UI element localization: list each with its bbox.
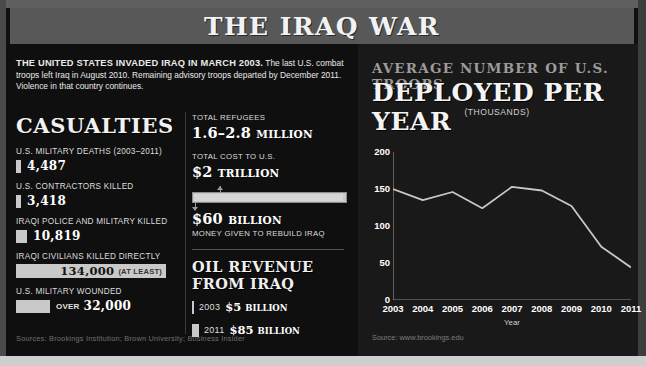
stat-label: MONEY GIVEN TO REBUILD IRAQ [192,229,352,238]
stat-rebuild-money: $60 BILLION MONEY GIVEN TO REBUILD IRAQ [192,210,352,238]
cost-marker-up-icon [220,186,221,193]
stat-number: 1.6–2.8 [192,124,251,141]
cost-bar-inner [194,194,343,201]
stat-total-refugees: TOTAL REFUGEES 1.6–2.8 MILLION [192,113,352,141]
stat-value: $60 BILLION [192,210,352,227]
chart-svg [393,152,631,300]
casualty-value: 4,487 [27,159,66,173]
casualty-item-military-wounded: U.S. MILITARY WOUNDED OVER 32,000 [16,287,178,313]
chart-y-tick-label: 150 [374,183,390,194]
chart-x-tick-label: 2009 [561,303,582,314]
oil-revenue-heading: OIL REVENUE FROM IRAQ [192,258,352,292]
title-bar: THE IRAQ WAR [10,8,634,44]
casualty-note: OVER [56,302,79,311]
casualty-bar [16,195,21,208]
casualty-bar: 134,000 (AT LEAST) [16,264,166,278]
chart-x-tick-label: 2007 [501,303,522,314]
casualty-item-iraqi-police-military: IRAQI POLICE AND MILITARY KILLED 10,819 [16,217,178,243]
stat-unit: BILLION [228,214,282,226]
cost-comparison-bar [192,186,347,208]
casualty-label: U.S. MILITARY WOUNDED [16,287,178,296]
chart-y-tick-label: 100 [374,220,390,231]
chart-x-tick-label: 2005 [442,303,463,314]
casualty-value: 32,000 [83,299,131,313]
chart-x-tick-label: 2008 [531,303,552,314]
frame-bottom-edge [0,356,646,366]
sources-left: Sources: Brookings Institution; Brown Un… [16,334,245,343]
chart-x-tick-label: 2010 [591,303,612,314]
casualty-bar [16,300,50,313]
casualty-label: IRAQI CIVILIANS KILLED DIRECTLY [16,252,178,261]
casualty-value: 134,000 [60,264,114,278]
troops-line-chart [393,152,631,300]
oil-number: $5 [225,300,241,314]
chart-header-unit: (THOUSANDS) [372,107,622,117]
page-title: THE IRAQ WAR [204,12,440,41]
chart-data-line [393,187,631,268]
oil-year: 2003 [199,302,220,312]
chart-source: Source: www.brookings.edu [372,333,464,342]
casualty-label: U.S. CONTRACTORS KILLED [16,182,178,191]
chart-x-axis-labels: 200320042005200620072008200920102011 [380,303,638,317]
casualty-note: (AT LEAST) [118,267,162,276]
casualty-value: 10,819 [33,229,81,243]
chart-x-tick-label: 2004 [412,303,433,314]
oil-revenue-row-2003: 2003 $5 BILLION [192,300,352,314]
column-divider [185,112,186,334]
casualties-column: CASUALTIES U.S. MILITARY DEATHS (2003–20… [16,113,178,322]
casualties-heading: CASUALTIES [16,113,178,138]
casualty-bar [16,160,21,173]
stat-label: TOTAL COST TO U.S. [192,152,352,161]
section-divider [192,249,344,250]
frame-top-edge [0,0,646,8]
chart-x-tick-label: 2006 [472,303,493,314]
stat-total-cost: TOTAL COST TO U.S. $2 TRILLION [192,152,352,180]
intro-paragraph: THE UNITED STATES INVADED IRAQ IN MARCH … [16,58,346,93]
casualty-label: U.S. MILITARY DEATHS (2003–2011) [16,147,178,156]
casualty-item-military-deaths: U.S. MILITARY DEATHS (2003–2011) 4,487 [16,147,178,173]
chart-x-axis-title: Year [393,318,631,327]
casualty-value: 3,418 [27,194,66,208]
intro-lead: THE UNITED STATES INVADED IRAQ IN MARCH … [16,58,263,68]
casualty-bar [16,230,27,243]
oil-value: $5 BILLION [225,300,287,314]
stat-value: 1.6–2.8 MILLION [192,124,352,141]
cost-marker-down-icon [195,202,196,209]
chart-y-tick-label: 200 [374,146,390,157]
oil-unit: BILLION [245,303,287,313]
casualty-item-iraqi-civilians: IRAQI CIVILIANS KILLED DIRECTLY 134,000 … [16,252,178,278]
statistics-column: TOTAL REFUGEES 1.6–2.8 MILLION TOTAL COS… [192,113,352,346]
oil-bar [192,301,194,314]
chart-y-axis-labels: 050100150200 [366,146,390,306]
oil-unit: BILLION [258,326,300,336]
stat-value: $2 TRILLION [192,163,352,180]
stat-number: $2 [192,163,213,180]
stat-label: TOTAL REFUGEES [192,113,352,122]
stat-unit: MILLION [256,128,312,140]
casualty-label: IRAQI POLICE AND MILITARY KILLED [16,217,178,226]
chart-x-tick-label: 2011 [621,303,642,314]
infographic-root: THE IRAQ WAR THE UNITED STATES INVADED I… [0,0,646,366]
chart-y-tick-label: 50 [379,257,390,268]
chart-x-tick-label: 2003 [382,303,403,314]
stat-number: $60 [192,210,223,227]
casualty-item-contractors: U.S. CONTRACTORS KILLED 3,418 [16,182,178,208]
stat-unit: TRILLION [218,167,279,179]
